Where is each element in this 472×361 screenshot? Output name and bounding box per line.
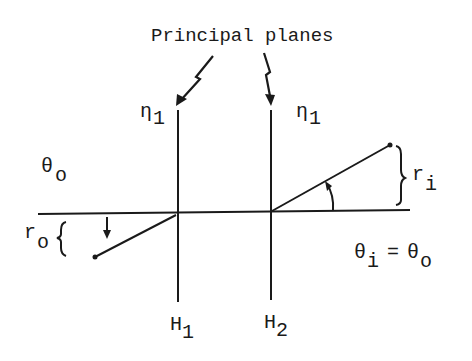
H2-label: H2 (264, 311, 288, 342)
arrowhead-right-icon (265, 94, 275, 106)
pointer-arrow-right-icon (264, 53, 270, 96)
plane2-index-label: η1 (296, 100, 321, 130)
image-point (388, 143, 393, 148)
plane1-index-label: η1 (140, 100, 165, 130)
diagram-title: Principal planes (151, 25, 333, 47)
image-ray (272, 145, 390, 211)
H1-label: H1 (170, 313, 194, 344)
object-angle-arrowhead-icon (103, 230, 111, 239)
object-point (93, 255, 98, 260)
r-o-label: ro (24, 221, 49, 254)
pointer-arrow-left-icon (181, 56, 213, 100)
principal-planes-diagram: Principal planes η1 η1 θo ro ri θi=θo H1… (0, 0, 472, 361)
r-o-brace-icon (57, 222, 66, 256)
theta-o-label: θo (41, 155, 67, 187)
r-i-brace-icon (396, 146, 405, 205)
theta-equation-label: θi=θo (354, 241, 432, 273)
optical-axis (38, 210, 410, 214)
r-i-label: ri (412, 163, 437, 196)
